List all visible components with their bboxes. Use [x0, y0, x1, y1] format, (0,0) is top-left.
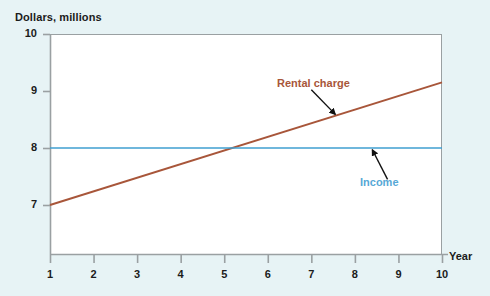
y-axis-tick-marks: [43, 35, 50, 206]
x-tick-label-10: 10: [430, 268, 454, 280]
series-label-income: Income: [360, 176, 399, 188]
series-label-rental-charge: Rental charge: [277, 77, 350, 89]
x-tick-label-9: 9: [386, 268, 410, 280]
x-tick-label-1: 1: [38, 268, 62, 280]
y-tick-label-10: 10: [11, 27, 37, 39]
x-tick-label-8: 8: [343, 268, 367, 280]
x-tick-label-5: 5: [212, 268, 236, 280]
y-tick-label-9: 9: [11, 84, 37, 96]
arrow-to-rental-charge: [311, 90, 335, 115]
x-tick-label-6: 6: [256, 268, 280, 280]
x-tick-label-2: 2: [82, 268, 106, 280]
y-tick-label-7: 7: [11, 198, 37, 210]
x-axis-tick-marks: [51, 255, 443, 263]
chart-canvas: Dollars, millions Year 78910 12345678910…: [0, 0, 490, 296]
arrow-to-income: [372, 150, 387, 180]
chart-vector-layer: [0, 0, 490, 296]
x-tick-label-4: 4: [169, 268, 193, 280]
x-tick-label-3: 3: [125, 268, 149, 280]
y-tick-label-8: 8: [11, 141, 37, 153]
x-tick-label-7: 7: [299, 268, 323, 280]
